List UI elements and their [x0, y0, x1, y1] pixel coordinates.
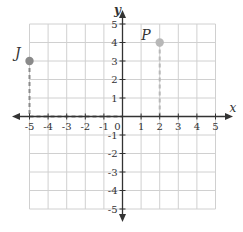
y-tick-label: 2 — [111, 74, 117, 85]
x-tick-label: 3 — [175, 121, 181, 132]
y-tick-label: 1 — [111, 93, 117, 104]
point-j-label: J — [12, 45, 22, 61]
point-p-label: P — [140, 27, 151, 43]
point-j-marker — [25, 57, 33, 65]
x-tick-label: 4 — [194, 121, 200, 132]
x-tick-label: -3 — [62, 121, 72, 132]
x-tick-label: -2 — [80, 121, 90, 132]
y-tick-label: -4 — [108, 185, 118, 196]
y-tick-label: 3 — [111, 56, 117, 67]
y-tick-label: -2 — [108, 148, 118, 159]
y-tick-label: 4 — [111, 37, 117, 48]
y-axis-bottom-arrow-icon — [119, 214, 126, 222]
x-tick-label: 1 — [138, 121, 144, 132]
x-tick-label: -4 — [43, 121, 53, 132]
x-tick-label: -5 — [25, 121, 35, 132]
x-axis-left-arrow-icon — [12, 113, 20, 120]
y-tick-label: -5 — [108, 204, 118, 215]
y-tick-label: -3 — [108, 167, 118, 178]
y-tick-label: 5 — [111, 19, 117, 30]
axes: xy — [12, 3, 237, 222]
coordinate-plane: xy -5-4-3-2-101234554321-1-2-3-4-5 JP — [0, 0, 243, 232]
x-tick-label: 2 — [157, 121, 163, 132]
point-p-marker — [156, 38, 164, 46]
x-axis-label: x — [230, 101, 237, 115]
y-tick-label: -1 — [108, 130, 118, 141]
x-tick-label: 5 — [212, 121, 218, 132]
y-axis-label: y — [113, 3, 122, 17]
